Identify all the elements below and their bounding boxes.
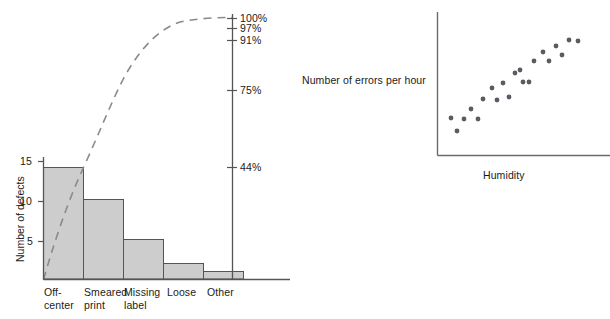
- scatter-point: [547, 59, 552, 64]
- pareto-ytick-5: 5: [27, 235, 33, 247]
- scatter-point: [521, 80, 526, 85]
- pareto-pct-97: 97%: [240, 22, 261, 34]
- scatter-x-axis-title: Humidity: [483, 169, 525, 181]
- scatter-points: [449, 38, 581, 134]
- scatter-point: [449, 116, 454, 121]
- pareto-cat-loose: Loose: [167, 286, 196, 298]
- bar-missing-label: [124, 240, 164, 280]
- pareto-pct-44: 44%: [240, 161, 261, 173]
- scatter-point: [567, 38, 572, 43]
- pareto-chart: [0, 0, 300, 319]
- pareto-cat-missing-label-line2: label: [124, 299, 147, 311]
- scatter-point: [518, 68, 523, 73]
- pareto-bars: [44, 168, 244, 280]
- pareto-cat-other: Other: [207, 286, 234, 298]
- pareto-cat-off-center-line1: Off-: [44, 286, 62, 298]
- bar-loose: [164, 264, 204, 280]
- bar-other: [204, 272, 244, 280]
- pareto-pct-91: 91%: [240, 34, 261, 46]
- scatter-point: [495, 98, 500, 103]
- scatter-point: [513, 71, 518, 76]
- pareto-ytick-15: 15: [20, 155, 32, 167]
- scatter-point: [476, 117, 481, 122]
- scatter-point: [501, 81, 506, 86]
- scatter-point: [490, 86, 495, 91]
- scatter-point: [576, 39, 581, 44]
- scatter-plot: [430, 0, 610, 170]
- pareto-cat-off-center-line2: center: [44, 299, 74, 311]
- scatter-point: [527, 80, 532, 85]
- pareto-cat-smeared-print-line2: print: [84, 299, 105, 311]
- scatter-point: [560, 53, 565, 58]
- scatter-point: [541, 50, 546, 55]
- pareto-cat-missing-label-line1: Missing: [124, 286, 160, 298]
- scatter-point: [455, 129, 460, 134]
- scatter-y-axis-title: Number of errors per hour: [302, 74, 426, 86]
- bar-off-center: [44, 168, 84, 280]
- pareto-pct-75: 75%: [240, 84, 261, 96]
- bar-smeared-print: [84, 200, 124, 280]
- scatter-point: [462, 117, 467, 122]
- scatter-point: [554, 44, 559, 49]
- scatter-point: [481, 97, 486, 102]
- scatter-point: [532, 59, 537, 64]
- pareto-y-ticks: [38, 162, 44, 242]
- pareto-y-axis-title: Number of defects: [14, 176, 26, 262]
- pareto-cat-smeared-print-line1: Smeared: [84, 286, 127, 298]
- scatter-point: [507, 95, 512, 100]
- scatter-point: [469, 107, 474, 112]
